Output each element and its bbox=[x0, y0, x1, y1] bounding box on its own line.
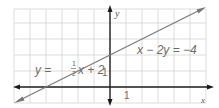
x-axis-label: x bbox=[200, 95, 205, 105]
svg-text:x + 2: x + 2 bbox=[77, 63, 105, 77]
coordinate-graph: y x 1 1 y = 1 2 x + 2 x − 2y = −4 bbox=[0, 0, 219, 108]
svg-text:1: 1 bbox=[72, 60, 76, 67]
y-axis-up-arrow-icon bbox=[108, 5, 113, 12]
line-lower-arrow-icon bbox=[14, 97, 25, 104]
x-tick-label: 1 bbox=[124, 90, 130, 101]
x-axis-right-arrow-icon bbox=[207, 85, 214, 90]
svg-text:y =: y = bbox=[34, 63, 55, 77]
equation-label-slope-intercept: y = 1 2 x + 2 bbox=[34, 60, 105, 77]
line-upper-arrow-icon bbox=[197, 7, 207, 14]
y-axis-label: y bbox=[114, 8, 120, 19]
svg-text:2: 2 bbox=[72, 70, 76, 77]
equation-label-standard-form: x − 2y = −4 bbox=[136, 43, 197, 57]
y-axis-down-arrow-icon bbox=[108, 99, 113, 106]
